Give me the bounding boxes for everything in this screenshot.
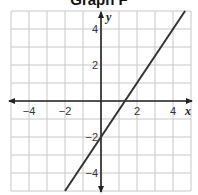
x-tick-label: −2 bbox=[59, 105, 72, 117]
y-tick-label: −4 bbox=[85, 167, 98, 179]
y-axis-label: y bbox=[104, 10, 112, 24]
x-tick-label: 2 bbox=[134, 105, 140, 117]
x-tick-label: −4 bbox=[23, 105, 36, 117]
coordinate-plane: −4−22442−2−4xy bbox=[0, 0, 198, 195]
x-tick-label: 4 bbox=[170, 105, 176, 117]
y-tick-label: 4 bbox=[92, 23, 98, 35]
y-tick-label: 2 bbox=[92, 59, 98, 71]
y-tick-label: −2 bbox=[85, 131, 98, 143]
x-axis-label: x bbox=[184, 104, 191, 118]
y-axis-arrow-up-icon bbox=[98, 11, 104, 18]
y-axis-arrow-down-icon bbox=[98, 186, 104, 193]
